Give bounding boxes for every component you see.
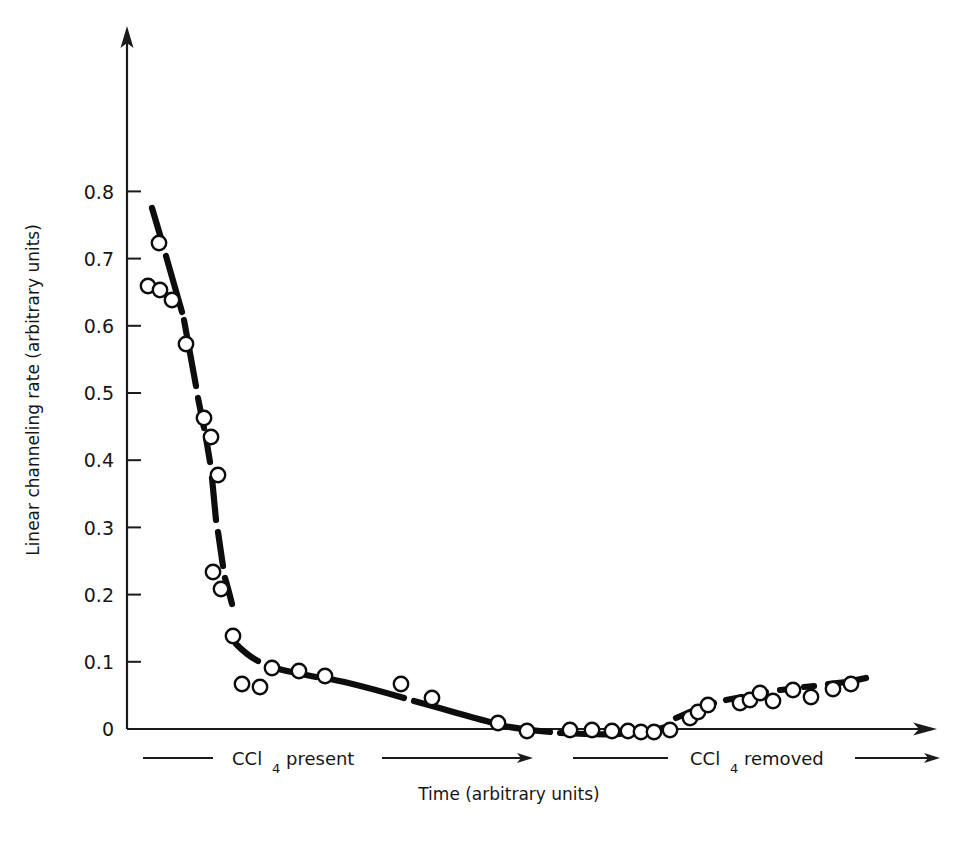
annotation-left-prefix: CCl <box>232 748 262 769</box>
data-point <box>491 716 505 730</box>
data-point <box>585 723 599 737</box>
annotation-left-subscript: 4 <box>272 761 280 776</box>
data-point <box>153 283 167 297</box>
data-point <box>701 698 715 712</box>
data-point <box>204 430 218 444</box>
data-point <box>211 468 225 482</box>
curve-seg-11 <box>306 675 316 677</box>
annotation-right-prefix: CCl <box>690 748 720 769</box>
data-point <box>253 680 267 694</box>
data-point <box>292 664 306 678</box>
data-point <box>394 677 408 691</box>
data-point <box>647 725 661 739</box>
data-point <box>663 723 677 737</box>
axes-group <box>121 26 938 736</box>
y-tick-group: 0.8 0.7 0.6 0.5 0.4 0.3 0.2 0.1 0 <box>84 181 141 741</box>
data-point <box>753 686 767 700</box>
trend-curve-group <box>152 208 866 734</box>
figure-container: 0.8 0.7 0.6 0.5 0.4 0.3 0.2 0.1 0 Linear… <box>0 0 964 854</box>
annotation-ccl4-present: CCl 4 present <box>143 748 533 776</box>
y-tick-label-0.7: 0.7 <box>84 248 114 270</box>
y-tick-label-0.8: 0.8 <box>84 181 114 203</box>
x-axis-title: Time (arbitrary units) <box>417 784 600 804</box>
y-tick-label-0.2: 0.2 <box>84 584 114 606</box>
data-point <box>179 337 193 351</box>
data-markers-group <box>141 236 858 739</box>
y-tick-label-0.6: 0.6 <box>84 315 114 337</box>
annotation-right-subscript: 4 <box>730 761 738 776</box>
data-point <box>844 677 858 691</box>
data-point <box>786 683 800 697</box>
y-tick-label-0.5: 0.5 <box>84 382 114 404</box>
data-point <box>226 629 240 643</box>
curve-seg-13 <box>414 701 494 723</box>
curve-seg-21 <box>804 686 814 687</box>
data-point <box>235 677 249 691</box>
curve-seg-7 <box>218 532 223 566</box>
data-point <box>804 690 818 704</box>
data-point <box>152 236 166 250</box>
curve-seg-3 <box>184 320 196 386</box>
data-point <box>766 694 780 708</box>
data-point <box>165 293 179 307</box>
data-point <box>318 669 332 683</box>
y-axis-title: Linear channeling rate (arbitrary units) <box>23 224 43 556</box>
data-point <box>206 565 220 579</box>
data-point <box>265 661 279 675</box>
data-point <box>520 724 534 738</box>
y-tick-label-0.3: 0.3 <box>84 517 114 539</box>
data-point <box>197 411 211 425</box>
annotation-ccl4-removed: CCl 4 removed <box>573 748 940 776</box>
data-point <box>563 723 577 737</box>
data-point <box>214 582 228 596</box>
curve-seg-6 <box>212 478 216 520</box>
y-tick-label-0.4: 0.4 <box>84 449 114 471</box>
annotation-left-suffix: present <box>286 748 354 769</box>
data-point <box>826 682 840 696</box>
chart-svg: 0.8 0.7 0.6 0.5 0.4 0.3 0.2 0.1 0 Linear… <box>0 0 964 854</box>
y-tick-label-0.1: 0.1 <box>84 651 114 673</box>
y-tick-label-0: 0 <box>102 718 114 740</box>
annotation-right-suffix: removed <box>744 748 824 769</box>
data-point <box>605 724 619 738</box>
data-point <box>425 691 439 705</box>
curve-seg-9 <box>236 644 258 661</box>
